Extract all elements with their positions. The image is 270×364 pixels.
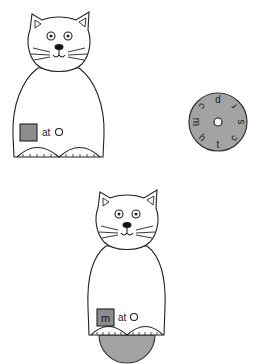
cat-bottom-word-ending: at xyxy=(118,312,127,323)
wheel-letter: p xyxy=(215,95,221,106)
cat-bottom-wheel-peek[interactable] xyxy=(99,335,155,363)
cat-bottom-nose xyxy=(123,223,131,228)
wheel-center-hole xyxy=(214,118,222,126)
wheel-letter: s xyxy=(235,120,246,125)
cat-top-body xyxy=(13,68,104,157)
cat-bottom-pivot-hole xyxy=(131,314,138,321)
cat-top-word-ending: at xyxy=(42,127,51,138)
cat-top-letter-square xyxy=(20,124,37,141)
cat-top-nose xyxy=(55,45,63,50)
wheel-letter: m xyxy=(191,118,202,126)
cat-bottom-square-letter: m xyxy=(101,312,110,324)
cat-top-pivot-hole xyxy=(56,129,63,136)
letter-wheel[interactable]: p r s c t h m c xyxy=(189,93,247,151)
worksheet-canvas: at p r s c t h m c m at xyxy=(0,0,270,364)
wheel-letter: t xyxy=(217,139,220,150)
